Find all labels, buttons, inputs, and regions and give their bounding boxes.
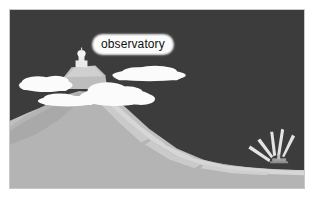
beacon-base-shadow	[270, 161, 288, 163]
observatory-mast	[81, 48, 82, 52]
beacon-post	[277, 154, 280, 159]
observatory-base	[76, 60, 88, 67]
cloud-left	[19, 76, 73, 92]
illustration-frame: observatory	[9, 9, 305, 189]
observatory-label: observatory	[94, 36, 172, 53]
